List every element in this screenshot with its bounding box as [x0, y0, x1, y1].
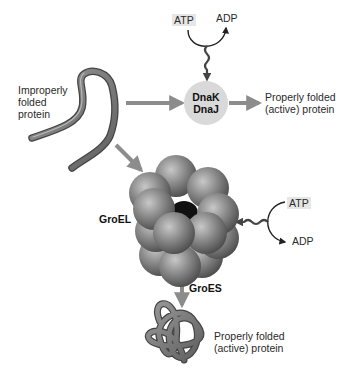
- dnak-label: DnaK: [191, 91, 221, 103]
- adp-label-side: ADP: [292, 235, 314, 247]
- product-top-label: Properly folded (active) protein: [265, 91, 336, 115]
- improper-protein-label: Improperly folded protein: [18, 84, 68, 120]
- folded-protein-icon: [148, 304, 201, 360]
- product-top-line1: Properly folded: [265, 91, 336, 103]
- product-top-line2: (active) protein: [265, 103, 336, 115]
- energy-arc-top: [188, 28, 226, 46]
- squiggle-arrow-side: [238, 220, 268, 224]
- groel-complex-icon: [129, 155, 239, 287]
- atp-label-top: ATP: [172, 14, 196, 26]
- groel-label: GroEL: [99, 213, 131, 225]
- improper-line3: protein: [18, 108, 68, 120]
- dnaj-label: DnaJ: [191, 103, 221, 115]
- diagram-canvas: [0, 0, 343, 385]
- product-bottom-line2: (active) protein: [214, 342, 285, 354]
- energy-arc-side: [268, 202, 285, 242]
- improper-line2: folded: [18, 96, 68, 108]
- dnak-dnaj-label: DnaK DnaJ: [191, 91, 221, 115]
- arrow-to-groel: [116, 145, 141, 170]
- product-bottom-line1: Properly folded: [214, 330, 285, 342]
- groes-label: GroES: [189, 282, 222, 294]
- adp-label-top: ADP: [216, 12, 238, 24]
- improper-line1: Improperly: [18, 84, 68, 96]
- squiggle-arrow-top: [205, 46, 209, 78]
- product-bottom-label: Properly folded (active) protein: [214, 330, 285, 354]
- atp-label-side: ATP: [287, 197, 311, 209]
